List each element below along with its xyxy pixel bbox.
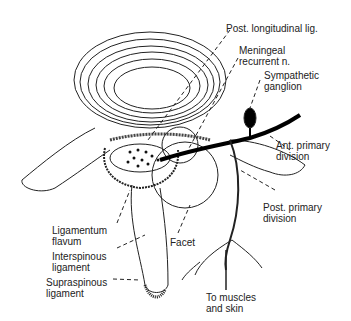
label-ant-primary-division: Ant. primary division <box>276 140 330 162</box>
label-facet: Facet <box>170 237 195 248</box>
label-to-muscles-and-skin: To muscles and skin <box>206 292 256 314</box>
cauda-equina-dots <box>127 149 160 168</box>
label-supraspinous-ligament: Supraspinous ligament <box>46 277 107 299</box>
label-post-longitudinal-lig: Post. longitudinal lig. <box>226 23 318 34</box>
label-interspinous-ligament: Interspinous ligament <box>52 251 106 273</box>
label-ligamentum-flavum: Ligamentum flavum <box>52 225 107 247</box>
vertebral-body <box>74 32 226 128</box>
leader-lines <box>113 30 290 280</box>
label-post-primary-division: Post. primary division <box>263 202 322 224</box>
label-sympathetic-ganglion: Sympathetic ganglion <box>264 70 319 92</box>
label-meningeal-recurrent-n: Meningeal recurrent n. <box>239 45 290 67</box>
